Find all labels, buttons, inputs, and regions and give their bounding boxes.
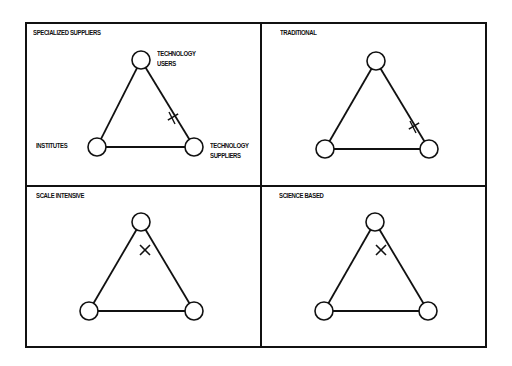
node-left-circle-icon: [315, 302, 333, 320]
edge-left: [330, 69, 372, 141]
node-top-circle-icon: [366, 213, 384, 231]
position-marker-icon: [140, 245, 150, 255]
edge-right: [146, 230, 190, 304]
position-marker-icon: [376, 245, 386, 255]
node-right-circle-icon: [419, 302, 437, 320]
edge-left: [328, 230, 370, 303]
node-left-circle-icon: [80, 302, 98, 320]
node-top-circle-icon: [132, 213, 150, 231]
node-right-circle-icon: [420, 140, 438, 158]
edge-left: [94, 230, 137, 303]
triangle-diagrams: [0, 0, 512, 366]
edge-right: [146, 68, 190, 140]
panel-traditional: [316, 52, 438, 158]
panel-specialized-suppliers: [88, 51, 203, 156]
edge-right: [381, 69, 425, 142]
node-left-circle-icon: [88, 138, 106, 156]
edge-left: [101, 68, 137, 139]
node-top-circle-icon: [132, 51, 150, 69]
panel-shapes: [80, 51, 438, 320]
panel-science-based: [315, 213, 437, 320]
node-right-circle-icon: [185, 302, 203, 320]
node-left-circle-icon: [316, 140, 334, 158]
node-top-circle-icon: [367, 52, 385, 70]
edge-right: [380, 230, 424, 304]
panel-scale-intensive: [80, 213, 203, 320]
node-right-circle-icon: [185, 138, 203, 156]
